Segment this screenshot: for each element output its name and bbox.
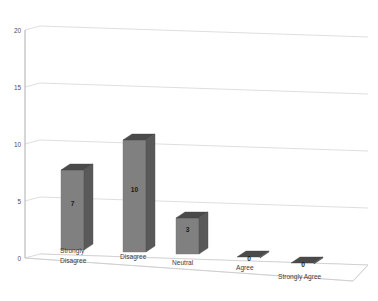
bar-neutral[interactable]: 3 (176, 212, 208, 254)
bar-front-face (123, 140, 146, 252)
bar-agree[interactable]: 0 (237, 251, 269, 262)
gridline-20 (40, 26, 368, 37)
category-label-disagree: Disagree (120, 253, 147, 261)
three-d-column-chart: 20 15 10 5 0 7 10 3 (0, 0, 378, 301)
y-tick-label-15: 15 (14, 84, 22, 91)
category-label-strongly-agree: Strongly Agree (278, 273, 322, 281)
bar-side-face (146, 134, 155, 252)
bar-disagree[interactable]: 10 (123, 134, 155, 252)
category-label-agree: Agree (236, 264, 254, 272)
category-label-neutral: Neutral (172, 259, 194, 266)
bar-side-face (199, 212, 208, 254)
depth-line-10 (25, 140, 40, 144)
y-tick-label-5: 5 (17, 198, 21, 205)
depth-line-15 (25, 83, 40, 87)
bar-value-label: 0 (247, 255, 251, 262)
category-label-strongly-disagree-line2: Disagree (60, 257, 87, 265)
axis-depth-connectors (25, 26, 40, 201)
bar-value-label: 0 (301, 261, 305, 268)
y-tick-label-10: 10 (14, 141, 22, 148)
bar-value-label: 10 (131, 186, 139, 193)
y-tick-label-20: 20 (14, 27, 22, 34)
chart-container: 20 15 10 5 0 7 10 3 (0, 0, 378, 301)
gridline-15 (40, 83, 368, 94)
y-tick-label-0: 0 (17, 255, 21, 262)
depth-line-5 (25, 197, 40, 201)
gridline-10 (40, 140, 368, 151)
bar-value-label: 3 (186, 226, 190, 233)
bar-front-face (61, 170, 84, 250)
bar-value-label: 7 (71, 200, 75, 207)
bar-strongly-disagree[interactable]: 7 (61, 164, 93, 250)
bar-front-face (176, 218, 199, 254)
category-label-strongly-disagree-line1: Strongly (60, 247, 85, 255)
depth-line-20 (25, 26, 40, 30)
y-tick-labels: 20 15 10 5 0 (14, 27, 22, 262)
bar-side-face (84, 164, 93, 250)
